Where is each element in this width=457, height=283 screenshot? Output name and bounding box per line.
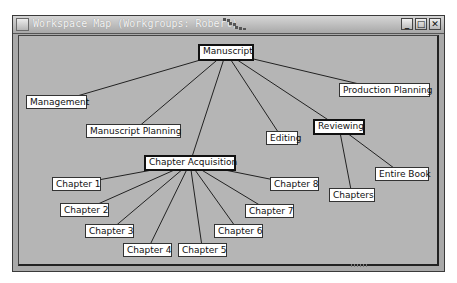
edge-manuscript-manuscript-planning (134, 53, 227, 132)
map-node-chapter-2[interactable]: Chapter 2 (60, 203, 109, 217)
map-node-chapter-3[interactable]: Chapter 3 (85, 224, 134, 238)
map-node-label: Production Planning (343, 85, 433, 95)
map-node-label: Chapter 5 (182, 245, 227, 255)
edge-chapter-acquisition-chapter-5 (190, 163, 203, 250)
map-node-label: Chapter Acquisition (149, 157, 237, 167)
map-node-label: Manuscript Planning (90, 126, 181, 136)
map-node-label: Chapter 3 (89, 226, 134, 236)
edge-reviewing-chapters (339, 127, 352, 195)
map-node-label: Reviewing (318, 121, 364, 131)
map-node-label: Chapter 6 (218, 226, 263, 236)
map-node-label: Chapter 7 (249, 206, 294, 216)
map-node-label: Chapter 4 (127, 245, 172, 255)
map-node-chapter-6[interactable]: Chapter 6 (214, 224, 263, 238)
map-node-label: Manuscript (203, 46, 253, 56)
edge-chapter-acquisition-chapter-6 (190, 163, 239, 231)
map-node-management[interactable]: Management (26, 95, 87, 109)
map-node-chapter-5[interactable]: Chapter 5 (178, 243, 227, 257)
edge-manuscript-reviewing (226, 53, 339, 128)
map-node-chapter-acquisition[interactable]: Chapter Acquisition (144, 155, 236, 171)
edge-manuscript-editing (226, 53, 282, 139)
map-node-entire-book[interactable]: Entire Book (375, 167, 429, 181)
map-node-chapters[interactable]: Chapters (329, 188, 375, 202)
map-node-chapter-4[interactable]: Chapter 4 (123, 243, 172, 257)
edge-chapter-acquisition-chapter-3 (110, 163, 191, 231)
edge-chapter-acquisition-chapter-4 (148, 163, 191, 250)
map-node-editing[interactable]: Editing (266, 131, 298, 145)
map-node-label: Editing (270, 133, 301, 143)
map-node-chapter-8[interactable]: Chapter 8 (270, 177, 319, 191)
map-node-label: Chapter 8 (274, 179, 319, 189)
map-edges (0, 0, 457, 283)
map-node-label: Chapter 1 (56, 179, 101, 189)
map-node-manuscript[interactable]: Manuscript (198, 44, 254, 61)
edge-manuscript-chapter-acquisition (190, 53, 226, 164)
map-node-manuscript-planning[interactable]: Manuscript Planning (86, 124, 181, 138)
map-node-label: Chapter 2 (64, 205, 109, 215)
map-node-production-planning[interactable]: Production Planning (339, 83, 430, 97)
map-node-chapter-7[interactable]: Chapter 7 (245, 204, 294, 218)
map-node-label: Entire Book (379, 169, 431, 179)
map-node-label: Management (30, 97, 89, 107)
map-node-label: Chapters (333, 190, 374, 200)
map-node-reviewing[interactable]: Reviewing (313, 119, 365, 135)
map-node-chapter-1[interactable]: Chapter 1 (52, 177, 101, 191)
